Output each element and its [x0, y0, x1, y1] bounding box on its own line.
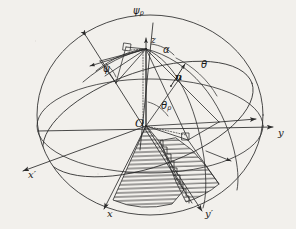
point-origin: [145, 125, 147, 127]
point-n-base: [170, 85, 172, 87]
diagram-canvas: [0, 0, 296, 229]
label-theta-p: θp: [161, 101, 171, 112]
pole-fan-line-4: [126, 47, 146, 49]
label-psi-p: ψp: [133, 6, 144, 17]
label-x-prime-axis: x′: [28, 170, 36, 180]
label-origin: O: [135, 118, 144, 129]
tilted-ellipse-arrow: [206, 151, 231, 161]
label-normal-vector-n: n: [175, 72, 182, 82]
point-pole: [145, 48, 147, 50]
label-y-prime-axis: y′: [205, 209, 213, 219]
label-theta: θ: [201, 60, 207, 70]
edge-hatch-right-top: [188, 122, 219, 140]
label-x-axis: x: [107, 209, 113, 219]
label-alpha: α: [163, 45, 170, 55]
radius-to-equator-right: [146, 122, 219, 126]
spherical-geometry-figure: ψp z α θ ψ n θp O y x′ x y′: [0, 0, 296, 229]
label-psi: ψ: [103, 64, 110, 74]
label-z-axis: z: [151, 36, 156, 45]
label-y-axis: y: [278, 128, 284, 138]
pole-fan-line-5: [90, 49, 146, 66]
